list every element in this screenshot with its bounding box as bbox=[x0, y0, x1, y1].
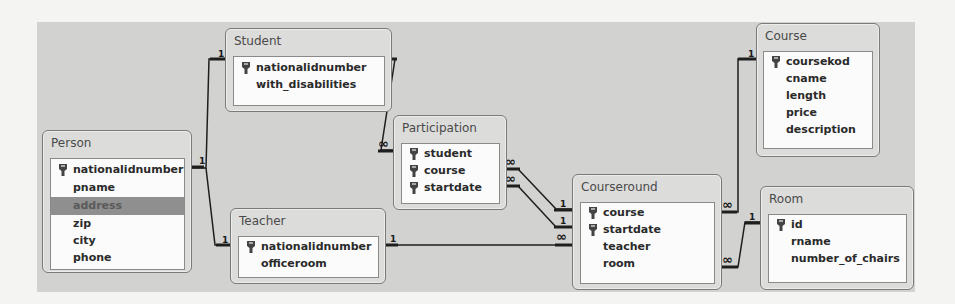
primary-key-icon bbox=[772, 56, 780, 68]
field-name: zip bbox=[73, 215, 91, 233]
field-name: startdate bbox=[424, 179, 482, 197]
primary-key-icon bbox=[242, 62, 250, 74]
field-row[interactable]: phone bbox=[51, 249, 184, 267]
field-row[interactable]: pname bbox=[51, 179, 184, 197]
field-name: coursekod bbox=[786, 53, 850, 71]
cardinality-room-one: 1 bbox=[749, 213, 755, 222]
field-list: nationalidnumber with_disabilities bbox=[233, 56, 385, 106]
field-name: pname bbox=[73, 179, 115, 197]
cardinality-person-one: 1 bbox=[199, 157, 205, 166]
cardinality-course-one: 1 bbox=[748, 50, 754, 59]
field-list: student course startdate bbox=[401, 143, 500, 204]
field-row[interactable]: id bbox=[769, 216, 906, 234]
field-row[interactable]: description bbox=[764, 121, 872, 139]
table-participation[interactable]: Participation student course startdate bbox=[393, 115, 507, 210]
cardinality-courseround-course-many: ∞ bbox=[722, 200, 732, 209]
field-name: nationalidnumber bbox=[261, 238, 371, 256]
field-list: nationalidnumber pname address zip city … bbox=[50, 158, 185, 270]
table-title: Courseround bbox=[581, 180, 658, 194]
field-row[interactable]: rname bbox=[769, 233, 906, 251]
table-title: Person bbox=[51, 136, 91, 150]
field-row[interactable]: teacher bbox=[581, 238, 714, 256]
field-name: officeroom bbox=[261, 255, 327, 273]
cardinality-courseround-course-one: 1 bbox=[560, 200, 566, 209]
field-list: course startdate teacher room bbox=[580, 202, 715, 284]
field-name: teacher bbox=[603, 238, 650, 256]
field-row[interactable]: coursekod bbox=[764, 53, 872, 71]
field-name: phone bbox=[73, 249, 112, 267]
table-title: Participation bbox=[402, 121, 477, 135]
field-name: id bbox=[791, 216, 803, 234]
table-title: Student bbox=[234, 34, 281, 48]
field-name: price bbox=[786, 104, 817, 122]
table-title: Course bbox=[765, 29, 807, 43]
primary-key-icon bbox=[410, 165, 418, 177]
cardinality-courseround-startdate-one: 1 bbox=[560, 217, 566, 226]
field-name: number_of_chairs bbox=[791, 250, 900, 268]
cardinality-courseround-room-many: ∞ bbox=[722, 255, 732, 264]
field-row[interactable]: length bbox=[764, 87, 872, 105]
field-name: student bbox=[424, 145, 472, 163]
cardinality-teacher-cr-one: 1 bbox=[390, 235, 396, 244]
field-list: nationalidnumber officeroom bbox=[238, 236, 379, 278]
field-name: city bbox=[73, 232, 96, 250]
primary-key-icon bbox=[247, 241, 255, 253]
primary-key-icon bbox=[410, 182, 418, 194]
primary-key-icon bbox=[59, 164, 67, 176]
field-name: course bbox=[424, 162, 465, 180]
field-row[interactable]: number_of_chairs bbox=[769, 250, 906, 268]
table-teacher[interactable]: Teacher nationalidnumber officeroom bbox=[230, 208, 386, 284]
primary-key-icon bbox=[589, 224, 597, 236]
field-row[interactable]: nationalidnumber bbox=[239, 238, 378, 256]
primary-key-icon bbox=[777, 219, 785, 231]
field-name: length bbox=[786, 87, 826, 105]
field-name: description bbox=[786, 121, 856, 139]
cardinality-student-one: 1 bbox=[218, 50, 224, 59]
field-name: cname bbox=[786, 70, 827, 88]
field-row[interactable]: officeroom bbox=[239, 255, 378, 273]
primary-key-icon bbox=[589, 207, 597, 219]
field-row[interactable]: startdate bbox=[581, 221, 714, 239]
table-person[interactable]: Person nationalidnumber pname address zi… bbox=[42, 130, 192, 273]
field-row[interactable]: nationalidnumber bbox=[51, 161, 184, 179]
field-row[interactable]: zip bbox=[51, 215, 184, 233]
field-list: coursekod cname length price description bbox=[763, 51, 873, 149]
field-row[interactable]: course bbox=[402, 162, 499, 180]
table-title: Room bbox=[769, 192, 803, 206]
field-name: course bbox=[603, 204, 644, 222]
field-row[interactable]: cname bbox=[764, 70, 872, 88]
cardinality-teacher-one: 1 bbox=[222, 236, 228, 245]
table-courseround[interactable]: Courseround course startdate teacher roo… bbox=[572, 174, 722, 290]
table-title: Teacher bbox=[239, 214, 286, 228]
field-name: startdate bbox=[603, 221, 661, 239]
table-course[interactable]: Course coursekod cname length price desc… bbox=[756, 23, 880, 157]
field-name: nationalidnumber bbox=[256, 59, 366, 77]
field-row[interactable]: with_disabilities bbox=[234, 76, 384, 94]
field-row[interactable]: student bbox=[402, 145, 499, 163]
field-row[interactable]: nationalidnumber bbox=[234, 59, 384, 77]
field-name: rname bbox=[791, 233, 831, 251]
field-row-selected[interactable]: address bbox=[51, 197, 184, 215]
field-list: id rname number_of_chairs bbox=[768, 214, 907, 283]
field-row[interactable]: price bbox=[764, 104, 872, 122]
field-name: room bbox=[603, 255, 635, 273]
field-name: with_disabilities bbox=[256, 76, 356, 94]
field-row[interactable]: startdate bbox=[402, 179, 499, 197]
table-student[interactable]: Student nationalidnumber with_disabiliti… bbox=[225, 28, 392, 112]
field-row[interactable]: room bbox=[581, 255, 714, 273]
table-room[interactable]: Room id rname number_of_chairs bbox=[760, 186, 914, 290]
field-name: nationalidnumber bbox=[73, 161, 183, 179]
cardinality-courseround-teacher-many: ∞ bbox=[556, 232, 566, 241]
field-name: address bbox=[73, 197, 122, 215]
field-row[interactable]: city bbox=[51, 232, 184, 250]
primary-key-icon bbox=[410, 148, 418, 160]
cardinality-participation-student-many: ∞ bbox=[378, 139, 388, 148]
field-row[interactable]: course bbox=[581, 204, 714, 222]
